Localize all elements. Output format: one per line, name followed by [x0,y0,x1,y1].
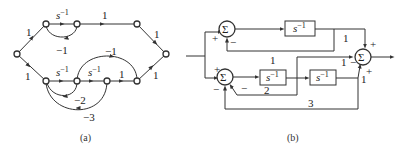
svg-text:+: + [366,65,372,77]
gain-top-out: 1 [343,32,349,44]
node-m4 [134,78,140,84]
svg-text:Σ: Σ [358,51,364,63]
node-m2 [74,78,80,84]
node-m1 [43,78,49,84]
node-input [14,51,20,57]
svg-text:+: + [370,38,376,50]
node-n2 [74,21,80,27]
gain-fb3: −3 [83,111,95,123]
signal-flow-graph-a: 1 1 s−1 −1 1 1 s−1 s−1 1 1 −1 −2 −3 (a) [14,8,169,144]
node-n3 [134,21,140,27]
gain-fb3: 3 [308,97,314,109]
gain-bot-out: 1 [153,69,159,81]
block-diagram-b: Σ s−1 Σ s−1 s−1 Σ [186,21,392,144]
svg-text:+: + [212,32,218,44]
svg-text:Σ: Σ [222,23,228,35]
svg-text:Σ: Σ [220,71,226,83]
node-output [163,51,169,57]
gain-bot-out: 1 [361,73,367,85]
branch-n3-out [137,24,166,54]
gain-in-top: 1 [26,26,32,38]
diagram-canvas: 1 1 s−1 −1 1 1 s−1 s−1 1 1 −1 −2 −3 (a) … [0,0,400,151]
gain-bot-s1: s−1 [56,65,69,78]
gain-in-bottom: 1 [25,70,31,82]
svg-text:−: − [213,83,219,95]
svg-text:+: + [214,63,220,75]
gain-feedforward: −1 [105,45,117,57]
gain-fb2: −2 [74,94,86,106]
caption-a: (a) [80,132,91,144]
gain-top-feedback: −1 [56,44,68,56]
node-n1 [43,21,49,27]
caption-b: (b) [287,132,299,144]
gain-top-s: s−1 [56,8,69,21]
gain-top-fb: 1 [270,54,276,66]
svg-text:−: − [350,56,356,68]
branch-m2-m1-feedback [47,81,77,96]
gain-fb2: 2 [264,84,270,96]
branch-n2-n1-feedback [46,24,77,37]
svg-text:−: − [230,36,236,48]
gain-top-out: 1 [154,28,160,40]
gain-bot-s2: s−1 [88,65,101,78]
branch-in-m1 [17,54,46,81]
node-m3 [104,78,110,84]
gain-top-mid: 1 [102,9,108,21]
branch-m2-m4-feedforward [77,56,137,81]
svg-text:−: − [241,82,247,94]
gain-bot-mid: 1 [119,68,125,80]
gain-mid-ff: 1 [341,56,347,68]
